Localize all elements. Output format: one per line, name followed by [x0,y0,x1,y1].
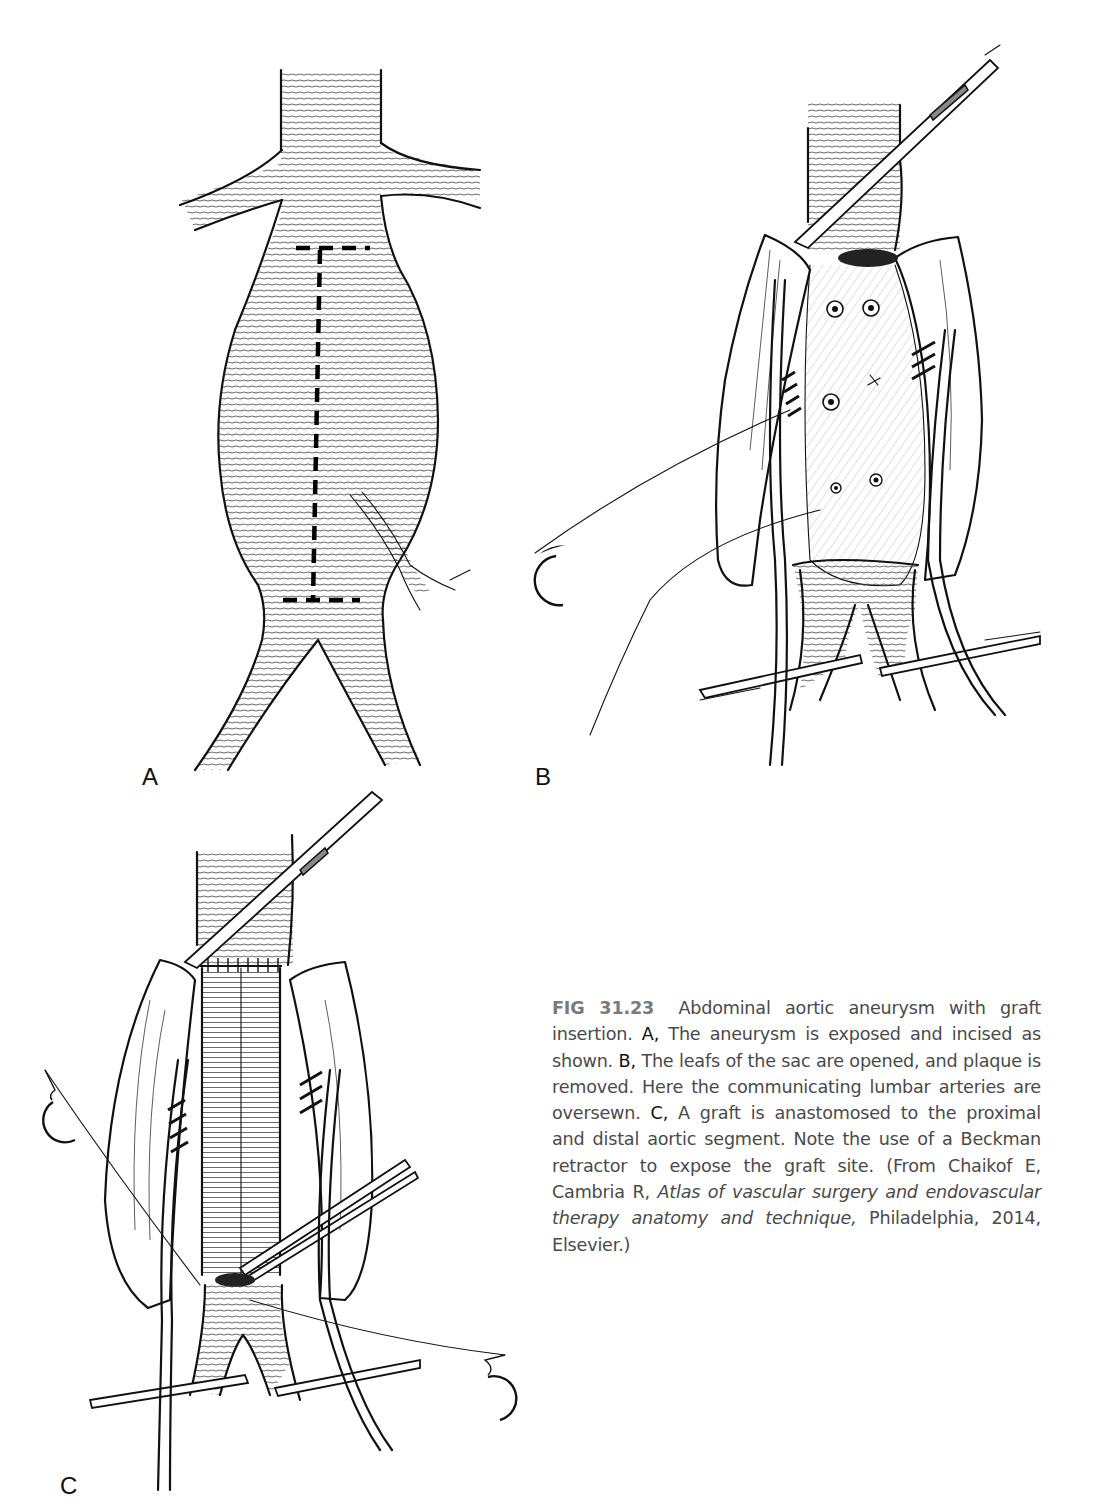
panel-b-drawing [535,45,1040,765]
needle-c-right [485,1355,516,1420]
caption-key-a: A, [642,1024,659,1044]
panel-label-a: A [142,765,158,789]
caption-key-b: B, [619,1051,636,1071]
panel-label-c: C [60,1474,77,1498]
needle-b [535,545,565,605]
figure-caption: FIG 31.23 Abdominal aortic aneurysm with… [552,995,1041,1258]
panel-label-b: B [535,765,551,789]
figure-illustration [0,0,1093,1501]
panel-c-drawing [43,792,516,1490]
panel-a-drawing [180,70,480,770]
caption-key-c: C, [651,1103,668,1123]
tube-graft [200,958,282,1275]
figure-number: FIG 31.23 [552,998,654,1018]
